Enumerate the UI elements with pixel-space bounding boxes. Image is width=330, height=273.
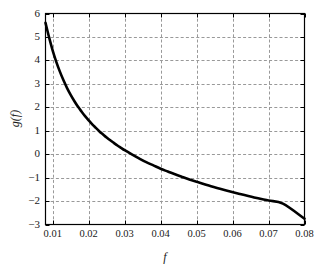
- x-tick-label: 0.05: [180, 228, 214, 239]
- x-tick-label: 0.06: [216, 228, 250, 239]
- x-tick-label: 0.08: [288, 228, 322, 239]
- y-tick-label: 0: [18, 148, 40, 159]
- data-curve-gf: [46, 23, 305, 219]
- x-tick-label: 0.02: [72, 228, 106, 239]
- x-tick-label: 0.07: [252, 228, 286, 239]
- grid-lines: [46, 14, 305, 225]
- axes-frame: [46, 14, 305, 225]
- y-tick-label: −1: [18, 172, 40, 183]
- y-tick-label: 4: [18, 54, 40, 65]
- x-tick-label: 0.03: [108, 228, 142, 239]
- y-axis-label: g(f): [8, 99, 23, 139]
- figure-canvas: −3−2−10123456 0.010.020.030.040.050.060.…: [0, 0, 330, 273]
- y-tick-label: −2: [18, 195, 40, 206]
- y-tick-label: 6: [18, 8, 40, 19]
- axis-ticks: [46, 14, 306, 226]
- x-axis-label: f: [0, 250, 330, 265]
- y-tick-label: 3: [18, 78, 40, 89]
- x-tick-label: 0.01: [36, 228, 70, 239]
- x-tick-label: 0.04: [144, 228, 178, 239]
- y-tick-label: 5: [18, 31, 40, 42]
